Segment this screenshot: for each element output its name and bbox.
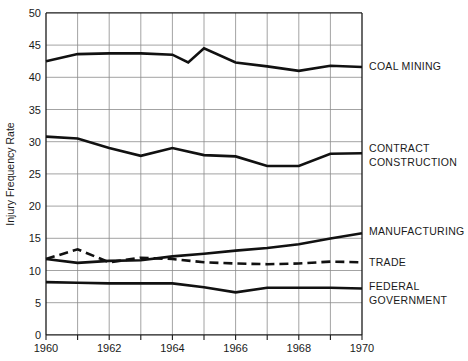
series-label-contract-construction-line1: CONTRACT — [369, 142, 430, 154]
series-labels: COAL MINING CONTRACT CONSTRUCTION MANUFA… — [369, 60, 464, 306]
ytick-label-25: 25 — [29, 168, 41, 180]
x-axis-tick-labels: 1960 1962 1964 1966 1968 1970 — [34, 342, 374, 354]
ytick-label-30: 30 — [29, 136, 41, 148]
series-label-trade: TRADE — [369, 256, 406, 268]
ytick-label-20: 20 — [29, 200, 41, 212]
series-label-coal-mining: COAL MINING — [369, 60, 441, 72]
xtick-label-1960: 1960 — [34, 342, 58, 354]
ytick-label-50: 50 — [29, 7, 41, 19]
ytick-label-10: 10 — [29, 265, 41, 277]
ytick-label-0: 0 — [35, 329, 41, 341]
series-label-contract-construction-line2: CONSTRUCTION — [369, 156, 457, 168]
ytick-label-45: 45 — [29, 39, 41, 51]
x-axis-ticks — [46, 335, 362, 340]
ytick-label-35: 35 — [29, 104, 41, 116]
xtick-label-1968: 1968 — [287, 342, 311, 354]
ytick-label-40: 40 — [29, 71, 41, 83]
ytick-label-5: 5 — [35, 297, 41, 309]
xtick-label-1970: 1970 — [350, 342, 374, 354]
y-axis-tick-labels: 50 45 40 35 30 25 20 15 10 5 0 — [29, 7, 41, 341]
y-axis-title: Injury Frequency Rate — [4, 122, 16, 225]
series-label-manufacturing: MANUFACTURING — [369, 225, 464, 237]
xtick-label-1964: 1964 — [160, 342, 184, 354]
xtick-label-1966: 1966 — [223, 342, 247, 354]
chart-canvas: 50 45 40 35 30 25 20 15 10 5 0 1960 1962… — [0, 0, 468, 361]
xtick-label-1962: 1962 — [97, 342, 121, 354]
ytick-label-15: 15 — [29, 232, 41, 244]
series-label-federal-government-line2: GOVERNMENT — [369, 294, 448, 306]
series-label-federal-government-line1: FEDERAL — [369, 280, 420, 292]
injury-frequency-rate-chart: 50 45 40 35 30 25 20 15 10 5 0 1960 1962… — [0, 0, 468, 361]
